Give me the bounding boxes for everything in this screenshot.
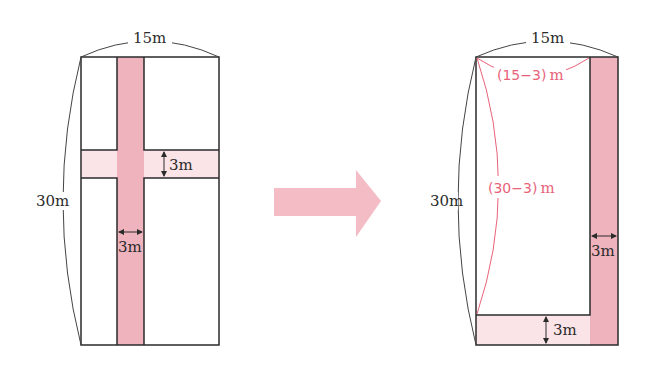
reduced-height-label: (30−3)m (488, 179, 555, 197)
horizontal-path (81, 150, 219, 178)
left-height-label: 30m (36, 192, 69, 210)
horizontal-path-label: 3m (169, 156, 193, 174)
left-figure: 15m 30m 3m 3m (34, 29, 219, 345)
vertical-path (117, 57, 144, 345)
left-field (81, 57, 219, 345)
right-path-label: 3m (591, 242, 615, 260)
right-path (590, 57, 618, 345)
right-height-label: 30m (430, 192, 463, 210)
right-arrow-icon (274, 170, 381, 237)
reduced-width-label: (15−3)m (497, 66, 564, 84)
left-width-label: 15m (133, 29, 166, 47)
vertical-path-label: 3m (118, 238, 142, 256)
bottom-path-label: 3m (553, 321, 577, 339)
right-width-label: 15m (531, 29, 564, 47)
right-figure: 15m 30m (15−3)m (30−3)m 3m 3m (428, 29, 618, 345)
